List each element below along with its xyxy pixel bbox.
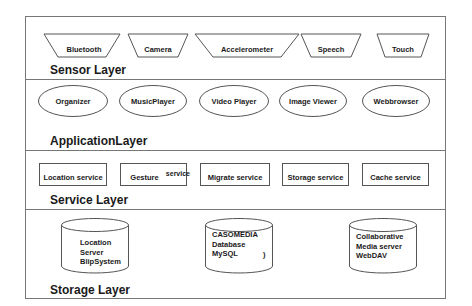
sensor-accelerometer: Accelerometer <box>195 34 299 58</box>
app-image-viewer: Image Viewer <box>279 85 347 117</box>
sensor-label: Touch <box>377 45 429 54</box>
sensor-label: Accelerometer <box>195 45 299 54</box>
application-layer-label: ApplicationLayer <box>50 134 147 148</box>
service-layer-label: Service Layer <box>50 193 128 207</box>
service-label-extra: service <box>166 170 190 177</box>
storage-label: CASOMEDIA Database MySQL <box>212 230 258 259</box>
app-musicplayer: MusicPlayer <box>119 85 187 117</box>
service-label: Gesture <box>121 173 168 182</box>
service-label: Location service <box>40 173 106 182</box>
sensor-camera: Camera <box>128 34 188 58</box>
storage-casomedia-database: CASOMEDIA Database MySQL ) <box>205 218 273 274</box>
service-label: Migrate service <box>201 173 269 182</box>
service-migrate: Migrate service <box>200 163 270 186</box>
app-label: MusicPlayer <box>119 97 187 106</box>
storage-line: CASOMEDIA <box>212 230 258 240</box>
storage-line: Media server <box>356 242 404 252</box>
storage-layer-label: Storage Layer <box>50 283 130 297</box>
storage-extra-mark: ) <box>263 250 266 260</box>
sensor-touch: Touch <box>377 34 429 58</box>
app-label: Video Player <box>199 97 269 106</box>
divider-service-storage <box>25 209 446 210</box>
sensor-label: Speech <box>301 45 361 54</box>
storage-line: Server <box>80 248 121 258</box>
sensor-label: Bluetooth <box>48 45 120 54</box>
storage-line: Location <box>80 238 121 248</box>
storage-line: Database <box>212 240 258 250</box>
storage-line: MySQL <box>212 249 258 259</box>
storage-label: Location Server BlipSystem <box>80 238 121 267</box>
app-label: Organizer <box>38 97 108 106</box>
divider-application-service <box>25 150 446 151</box>
storage-line: BlipSystem <box>80 257 121 267</box>
divider-sensor-application <box>25 79 446 80</box>
storage-line: Collaborative <box>356 232 404 242</box>
app-webbrowser: Webbrowser <box>362 85 430 117</box>
storage-label: Collaborative Media server WebDAV <box>356 232 404 261</box>
storage-line: WebDAV <box>356 251 404 261</box>
app-organizer: Organizer <box>38 85 108 117</box>
app-label: Image Viewer <box>279 97 347 106</box>
service-storage: Storage service <box>282 163 349 186</box>
service-location: Location service <box>39 163 107 186</box>
sensor-bluetooth: Bluetooth <box>44 34 120 58</box>
sensor-speech: Speech <box>301 34 361 58</box>
sensor-layer-label: Sensor Layer <box>50 63 126 77</box>
app-video-player: Video Player <box>199 85 269 117</box>
storage-collaborative-media-server: Collaborative Media server WebDAV <box>349 218 417 274</box>
app-label: Webbrowser <box>362 97 430 106</box>
service-gesture: Gesture service <box>120 163 187 186</box>
service-label: Storage service <box>283 173 348 182</box>
sensor-label: Camera <box>128 45 188 54</box>
storage-location-server: Location Server BlipSystem <box>61 218 129 274</box>
service-cache: Cache service <box>362 163 429 186</box>
service-label: Cache service <box>363 173 428 182</box>
